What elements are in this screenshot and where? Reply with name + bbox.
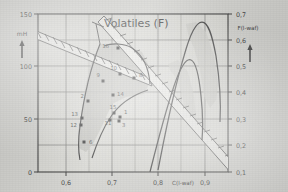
chart-title: Volatiles (F) <box>104 17 169 30</box>
left-axis-label: mH <box>17 30 27 37</box>
data-label-9: 9 <box>97 72 101 78</box>
data-label-3: 3 <box>122 122 125 128</box>
data-label-1: 1 <box>124 109 127 115</box>
data-label-15: 15 <box>110 104 117 110</box>
right-axis-label: F(l-waf) <box>237 25 258 31</box>
data-point-2 <box>87 100 90 103</box>
data-label-14: 14 <box>117 91 124 97</box>
data-label-8: 8 <box>139 72 143 78</box>
right-tick-07: 0,7 <box>236 11 246 19</box>
right-tick-05: 0,5 <box>236 63 246 71</box>
data-point-9 <box>102 80 105 83</box>
data-label-16: 16 <box>102 43 109 49</box>
chart-svg: 16 10 9 8 14 2 15 13 11 1 3 12 6 Volatil… <box>0 0 288 192</box>
left-tick-100: 100 <box>20 63 32 71</box>
data-point-10 <box>119 73 122 76</box>
data-point-8 <box>133 77 136 80</box>
data-point-1 <box>119 116 122 119</box>
data-point-3 <box>118 120 121 123</box>
data-point-6 <box>83 141 86 144</box>
data-label-13: 13 <box>71 111 78 117</box>
figure-canvas: 16 10 9 8 14 2 15 13 11 1 3 12 6 Volatil… <box>0 0 288 192</box>
data-point-13 <box>81 117 84 120</box>
data-label-2: 2 <box>81 93 84 99</box>
right-tick-01: 0,1 <box>236 169 246 177</box>
right-tick-02: 0,2 <box>236 142 246 150</box>
bottom-axis-label: C(l-waf) <box>172 180 194 186</box>
data-label-11: 11 <box>105 120 112 126</box>
bottom-tick-08: 0,8 <box>153 179 163 187</box>
bottom-tick-06: 0,6 <box>61 179 71 187</box>
right-tick-03: 0,3 <box>236 116 246 124</box>
data-point-12 <box>80 124 83 127</box>
right-tick-06: 0,6 <box>236 37 246 45</box>
right-axis: 0,7 0,6 0,5 0,4 0,3 0,2 0,1 F(l-waf) <box>228 11 259 177</box>
data-label-6: 6 <box>89 139 93 145</box>
bottom-tick-07: 0,7 <box>107 179 117 187</box>
right-tick-04: 0,4 <box>236 89 246 97</box>
data-label-12: 12 <box>70 122 77 128</box>
left-tick-50: 50 <box>24 116 32 124</box>
left-axis: 150 100 50 0 mH <box>17 11 38 177</box>
bottom-tick-09: 0,9 <box>200 179 210 187</box>
data-point-15 <box>113 112 116 115</box>
data-point-14 <box>112 94 115 97</box>
data-point-16 <box>117 47 120 50</box>
left-tick-0: 0 <box>28 169 32 177</box>
bottom-axis: 0,6 0,7 0,8 0,9 C(l-waf) <box>61 172 210 187</box>
data-label-10: 10 <box>110 65 117 71</box>
right-axis-up-arrow <box>247 44 252 62</box>
left-tick-150: 150 <box>20 11 32 19</box>
left-axis-up-arrow <box>19 40 24 58</box>
